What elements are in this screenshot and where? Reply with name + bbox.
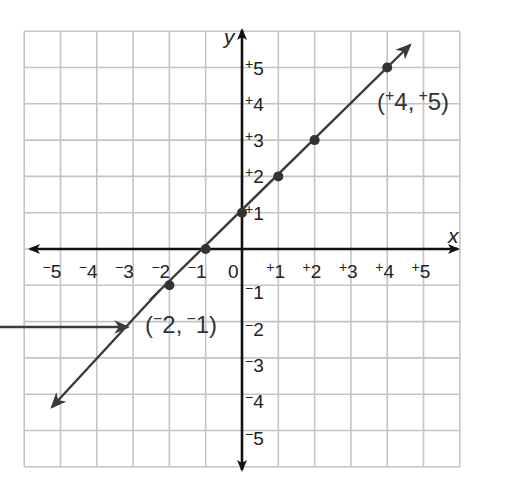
x-tick-label: −5 <box>43 259 62 282</box>
data-point <box>273 171 283 181</box>
y-tick-label: −5 <box>245 426 264 449</box>
x-tick-label: −2 <box>151 259 170 282</box>
x-tick-label: +2 <box>303 259 322 282</box>
x-tick-label: +5 <box>412 259 431 282</box>
data-point <box>310 135 320 145</box>
y-tick-label: −2 <box>245 317 264 340</box>
y-tick-label: −3 <box>245 353 264 376</box>
x-tick-label: +3 <box>339 259 358 282</box>
y-tick-label: −4 <box>245 389 264 412</box>
y-tick-label: +5 <box>245 56 264 79</box>
point-label-neg2-neg1: (−2,−1) <box>145 310 217 338</box>
y-tick-label: +4 <box>245 92 264 115</box>
coordinate-plane: y x −5−4−3−2−10+1+2+3+4+5+5+4+3+2+1−1−2−… <box>0 0 512 497</box>
y-tick-label: +2 <box>245 164 264 187</box>
x-tick-label: +4 <box>375 259 394 282</box>
y-axis-label: y <box>222 25 236 48</box>
tick-labels: −5−4−3−2−10+1+2+3+4+5+5+4+3+2+1−1−2−3−4−… <box>43 56 431 449</box>
data-point <box>382 63 392 73</box>
data-point <box>201 244 211 254</box>
x-tick-label: −1 <box>188 259 207 282</box>
x-tick-label: 0 <box>228 261 239 282</box>
x-tick-label: −4 <box>79 259 98 282</box>
data-point <box>237 208 247 218</box>
data-point <box>164 280 174 290</box>
x-tick-label: −3 <box>115 259 134 282</box>
y-tick-label: −1 <box>245 280 264 303</box>
x-tick-label: +1 <box>266 259 285 282</box>
graphed-line-lower <box>52 290 160 407</box>
y-tick-label: +3 <box>245 128 264 151</box>
x-axis-label: x <box>447 224 460 247</box>
